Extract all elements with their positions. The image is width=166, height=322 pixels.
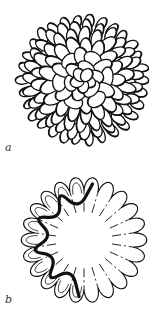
folded-chain-line bbox=[35, 184, 92, 297]
figure-panel-a: a bbox=[0, 0, 166, 161]
panel-label-a: a bbox=[5, 141, 12, 154]
capsomer-group bbox=[14, 13, 149, 146]
panel-label-b: b bbox=[5, 293, 12, 306]
figure-panel-b bbox=[0, 161, 166, 322]
capsid-surface-drawing bbox=[0, 0, 166, 161]
capsid-cross-section-drawing bbox=[0, 161, 166, 322]
